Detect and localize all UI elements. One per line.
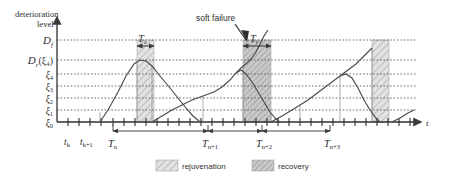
- legend-label-recovery: recovery: [278, 162, 309, 171]
- x-axis-tick-labels: tk tk+1 Tn Tn+1 Tn+2 Tn+3: [64, 137, 340, 150]
- deterioration-level-diagram: deterioration level Df Dr(ξ₄) ξ4 ξ3 ξ2 ξ…: [0, 0, 449, 181]
- legend-swatch-rejuvenation: [156, 160, 178, 171]
- y-tick-label-xi4: ξ4: [46, 70, 54, 81]
- y-tick-label-Df: Df: [42, 34, 54, 49]
- soft-failure-pointer: [235, 24, 249, 42]
- y-axis-title-line1: deterioration: [15, 9, 59, 19]
- threshold-gridlines: [57, 40, 417, 110]
- legend-swatch-recovery: [252, 160, 274, 171]
- y-tick-label-xi1: ξ1: [46, 106, 53, 117]
- y-tick-label-xi3: ξ3: [46, 82, 53, 93]
- curve-restart-path: [392, 110, 414, 122]
- x-tick-label-Tn2: Tn+2: [256, 138, 272, 150]
- legend: rejuvenation recovery: [156, 160, 309, 171]
- x-tick-label-Tn1: Tn+1: [202, 138, 218, 150]
- band-recovery-1: [243, 40, 271, 122]
- diagram-canvas: deterioration level Df Dr(ξ₄) ξ4 ξ3 ξ2 ξ…: [0, 0, 449, 181]
- y-axis-tick-labels: Df Dr(ξ₄) ξ4 ξ3 ξ2 ξ1 ξ0: [27, 34, 54, 129]
- x-tick-label-Tn: Tn: [108, 138, 118, 150]
- recovery-duration-label: Tr: [250, 33, 259, 45]
- legend-label-rejuvenation: rejuvenation: [182, 162, 226, 171]
- x-tick-label-tk: tk: [64, 137, 71, 148]
- y-tick-label-Dr: Dr(ξ₄): [27, 54, 53, 69]
- rejuvenation-duration-label: Ta: [138, 33, 147, 45]
- y-tick-label-xi0: ξ0: [46, 118, 53, 129]
- x-tick-label-tk1: tk+1: [80, 137, 93, 148]
- soft-failure-label: soft failure: [196, 13, 235, 23]
- x-tick-label-Tn3: Tn+3: [324, 138, 340, 150]
- y-axis-title-line2: level: [37, 19, 54, 29]
- x-axis-title: t: [426, 118, 429, 128]
- shaded-bands-group: [137, 40, 389, 122]
- y-tick-label-xi2: ξ2: [46, 94, 53, 105]
